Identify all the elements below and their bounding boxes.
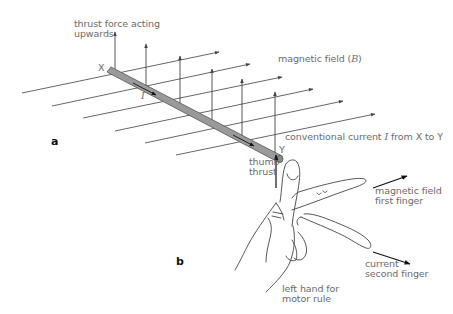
panel-b-label: b	[176, 255, 184, 268]
left-hand-icon	[235, 160, 371, 292]
end-y-label: Y	[279, 145, 285, 155]
hand-caption: left hand for motor rule	[282, 284, 339, 304]
field-line	[52, 64, 250, 106]
magnetic-field-close: )	[358, 53, 362, 64]
current-symbol-label: I	[141, 91, 145, 101]
first-finger-text: first finger	[375, 196, 442, 206]
thumb-thrust-label: thumb thrust	[249, 157, 280, 177]
second-finger-text: second finger	[365, 269, 428, 279]
thrust-force-label: thrust force acting upwards	[74, 19, 160, 39]
conventional-current-post: from X to Y	[388, 131, 443, 142]
conductor-rod	[107, 67, 283, 163]
conventional-current-label: conventional current I from X to Y	[285, 132, 443, 142]
end-x-label: X	[98, 63, 104, 73]
first-finger-label: magnetic field first finger	[375, 186, 442, 206]
panel-a-label: a	[51, 135, 58, 148]
magnetic-field-label: magnetic field (B)	[278, 54, 362, 64]
conventional-current-text: conventional current	[285, 131, 384, 142]
thrust-label: thrust	[249, 167, 280, 177]
thrust-arrows	[115, 32, 275, 153]
thrust-force-line-2: upwards	[74, 29, 160, 39]
hand-caption-line-2: motor rule	[282, 294, 339, 304]
magnetic-field-text: magnetic field (	[278, 53, 351, 64]
second-finger-label: current second finger	[365, 259, 428, 279]
